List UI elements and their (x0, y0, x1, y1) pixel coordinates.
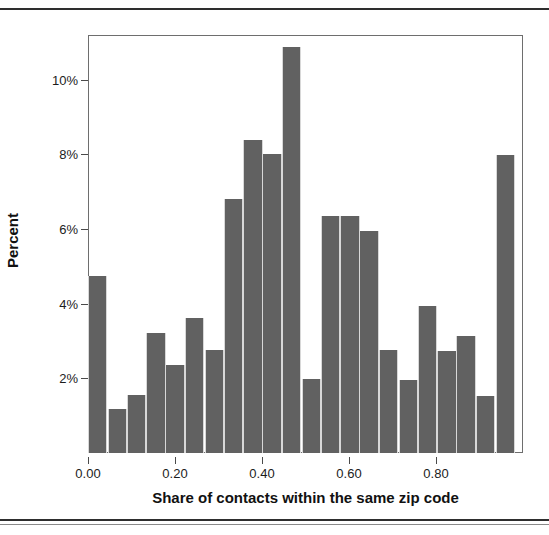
histogram-bar (224, 199, 243, 453)
histogram-bar (127, 395, 146, 453)
y-tick-label: 10% (52, 72, 78, 87)
x-tick-label: 0.60 (336, 466, 361, 481)
x-tick-mark (436, 457, 437, 464)
histogram-bar (359, 231, 378, 453)
y-tick-label: 4% (59, 296, 78, 311)
y-tick-mark (81, 304, 88, 305)
x-tick-mark (349, 457, 350, 464)
x-tick-label: 0.80 (423, 466, 448, 481)
histogram-bar (379, 350, 398, 453)
y-tick-mark (81, 378, 88, 379)
histogram-bar (165, 365, 184, 453)
y-tick-mark (81, 154, 88, 155)
histogram-bar (437, 351, 456, 453)
histogram-bar (88, 276, 107, 453)
page-bottom-rule (0, 519, 549, 521)
histogram-bar (321, 216, 340, 453)
y-tick-label: 2% (59, 371, 78, 386)
y-tick-mark (81, 229, 88, 230)
histogram-bar (496, 155, 515, 453)
histogram-bar (262, 154, 281, 453)
histogram-bar (302, 379, 321, 453)
y-tick-label: 6% (59, 222, 78, 237)
histogram-bar (185, 318, 204, 453)
histogram-bar (243, 140, 262, 454)
histogram-bar (108, 409, 127, 453)
histogram-bar (205, 350, 224, 453)
x-tick-label: 0.20 (162, 466, 187, 481)
x-tick-mark (175, 457, 176, 464)
y-tick-mark (81, 80, 88, 81)
x-tick-mark (88, 457, 89, 464)
x-tick-label: 0.40 (249, 466, 274, 481)
histogram-bar (146, 333, 165, 453)
page-top-rule (0, 8, 549, 10)
plot-area: 2%4%6%8%10% 0.000.200.400.600.80 (88, 35, 523, 453)
histogram-figure: Percent 2%4%6%8%10% 0.000.200.400.600.80… (0, 0, 549, 535)
histogram-bar (418, 306, 437, 453)
histogram-bar (476, 396, 495, 453)
histogram-bar (282, 47, 301, 453)
y-axis-title: Percent (4, 212, 21, 267)
histogram-bar (399, 380, 418, 453)
histogram-bar (456, 336, 475, 453)
x-axis-title: Share of contacts within the same zip co… (88, 489, 523, 506)
histogram-bar (340, 216, 359, 453)
page-bottom-rule-secondary (0, 524, 549, 525)
x-tick-mark (262, 457, 263, 464)
x-tick-label: 0.00 (75, 466, 100, 481)
y-tick-label: 8% (59, 147, 78, 162)
